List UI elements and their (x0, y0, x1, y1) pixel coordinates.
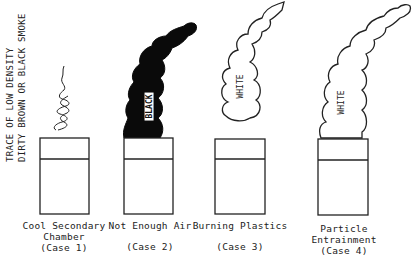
caption-title-line-1: Cool Secondary (14, 220, 114, 231)
side-note: TRACE OF LOW DENSITY DIRTY BROWN OR BLAC… (4, 13, 28, 162)
caption-case-label: (Case 1) (14, 242, 114, 253)
stack-case-2 (124, 138, 173, 214)
smoke-plume-black-case-2 (123, 23, 196, 138)
smoke-label-case-3: WHITE (236, 74, 245, 98)
caption-title-line-1: Not Enough Air (100, 220, 200, 231)
stack-case-1 (40, 138, 89, 214)
stack-case-4 (318, 139, 368, 215)
smoke-label-case-4: WHITE (337, 90, 346, 114)
caption-title-line-2: Chamber (14, 231, 114, 242)
smoke-plume-white-case-3 (222, 2, 284, 121)
stack-case-3 (215, 139, 265, 214)
caption-case-2: Not Enough Air (Case 2) (100, 220, 200, 252)
caption-title-line-2: Entrainment (294, 234, 394, 245)
caption-case-label: (Case 4) (294, 245, 394, 256)
caption-case-4: Particle Entrainment (Case 4) (294, 223, 394, 256)
caption-case-label: (Case 3) (190, 241, 290, 252)
smoke-plume-white-case-4 (320, 5, 411, 138)
caption-case-1: Cool Secondary Chamber (Case 1) (14, 220, 114, 253)
caption-title-line-1: Particle (294, 223, 394, 234)
side-note-line-1: TRACE OF LOW DENSITY (4, 13, 16, 162)
caption-case-3: Burning Plastics (Case 3) (190, 220, 290, 252)
smoke-diagram: TRACE OF LOW DENSITY DIRTY BROWN OR BLAC… (0, 0, 413, 259)
side-note-line-2: DIRTY BROWN OR BLACK SMOKE (16, 13, 28, 162)
caption-title-line-1: Burning Plastics (190, 220, 290, 231)
caption-case-label: (Case 2) (100, 241, 200, 252)
smoke-label-case-2: BLACK (145, 92, 154, 120)
